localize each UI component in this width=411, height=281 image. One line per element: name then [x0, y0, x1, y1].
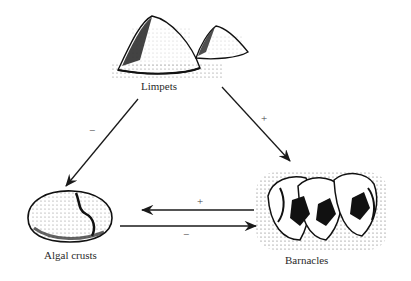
arrow-limpets-to-barnacles [222, 87, 290, 161]
sign-algal-crusts-barnacles: − [183, 229, 189, 240]
limpets-illustration [112, 16, 248, 78]
algal-crust-illustration [28, 191, 112, 242]
barnacles-illustration [256, 172, 388, 250]
algal-crusts-label: Algal crusts [44, 249, 97, 261]
sign-barnacles-algal-crusts: + [197, 196, 203, 207]
sign-limpets-algal-crusts: − [89, 125, 95, 136]
arrow-limpets-to-algal-crusts [66, 99, 138, 186]
limpets-label: Limpets [141, 80, 177, 92]
barnacles-label: Barnacles [285, 254, 328, 266]
interaction-diagram [0, 0, 411, 281]
sign-limpets-barnacles: + [261, 113, 267, 124]
